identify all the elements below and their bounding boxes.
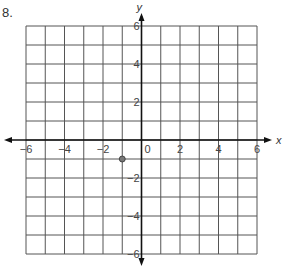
plotted-points xyxy=(119,156,125,162)
x-tick-label: −4 xyxy=(58,143,71,155)
x-axis-left-arrow-icon xyxy=(4,137,12,143)
y-axis-label: y xyxy=(136,1,144,13)
y-tick-label: 2 xyxy=(133,96,139,108)
x-tick-label: 0 xyxy=(144,143,150,155)
x-tick-label: −6 xyxy=(20,143,33,155)
data-point xyxy=(119,156,125,162)
x-tick-label: −2 xyxy=(97,143,110,155)
x-tick-label: 6 xyxy=(254,143,260,155)
x-tick-label: 2 xyxy=(177,143,183,155)
x-axis-right-arrow-icon xyxy=(264,137,272,143)
coordinate-plane: xy −6−4−20246−6−4−2246 xyxy=(0,0,288,267)
x-axis-label: x xyxy=(275,134,282,146)
y-tick-label: −2 xyxy=(127,172,140,184)
y-tick-label: 4 xyxy=(133,58,139,70)
y-tick-label: 6 xyxy=(133,20,139,32)
x-tick-label: 4 xyxy=(215,143,221,155)
y-tick-label: −4 xyxy=(127,210,140,222)
y-tick-label: −6 xyxy=(127,248,140,260)
